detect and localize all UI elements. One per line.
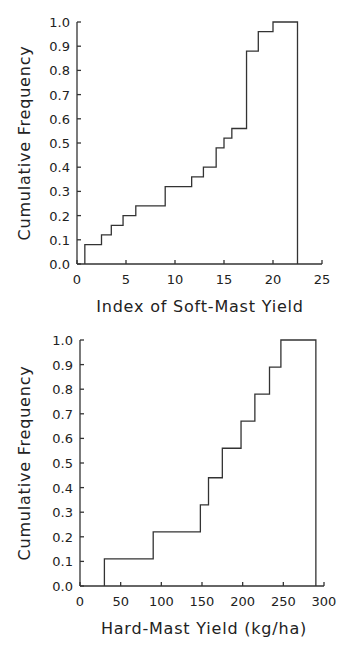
y-tick-label: 0.6 <box>52 431 73 446</box>
y-tick-label: 0.3 <box>52 505 73 520</box>
y-tick-label: 0.1 <box>49 233 70 248</box>
x-tick-label: 0 <box>76 594 84 609</box>
y-tick-label: 0.2 <box>52 530 73 545</box>
y-tick-label: 0.3 <box>49 184 70 199</box>
y-tick-label: 0.5 <box>49 136 70 151</box>
y-tick-label: 0.0 <box>52 579 73 594</box>
y-tick-label: 0.1 <box>52 554 73 569</box>
y-tick-label: 0.8 <box>49 63 70 78</box>
soft-mast-chart: 0.00.10.20.30.40.50.60.70.80.91.0 051015… <box>0 0 352 320</box>
y-tick-label: 0.9 <box>52 358 73 373</box>
y-tick-label: 0.2 <box>49 209 70 224</box>
x-tick-label: 50 <box>112 594 129 609</box>
x-tick-label: 0 <box>73 272 81 287</box>
y-tick-label: 1.0 <box>49 15 70 30</box>
x-tick-label: 20 <box>265 272 282 287</box>
y-tick-label: 0.0 <box>49 257 70 272</box>
y-tick-label: 0.6 <box>49 112 70 127</box>
y-axis-title: Cumulative Frequency <box>15 365 34 560</box>
x-axis-title: Hard-Mast Yield (kg/ha) <box>101 619 307 638</box>
y-tick-label: 0.8 <box>52 382 73 397</box>
y-tick-label: 0.4 <box>49 160 70 175</box>
y-axis: 0.00.10.20.30.40.50.60.70.80.91.0 <box>52 333 84 594</box>
x-tick-label: 25 <box>314 272 331 287</box>
step-line <box>104 340 315 586</box>
y-axis-title: Cumulative Frequency <box>15 45 34 240</box>
y-tick-label: 0.5 <box>52 456 73 471</box>
x-axis: 050100150200250300 <box>76 582 337 609</box>
x-tick-label: 250 <box>271 594 296 609</box>
y-tick-label: 0.9 <box>49 39 70 54</box>
x-tick-label: 200 <box>230 594 255 609</box>
x-tick-label: 5 <box>122 272 130 287</box>
x-axis: 0510152025 <box>73 260 330 287</box>
y-tick-label: 0.7 <box>52 407 73 422</box>
y-tick-label: 0.7 <box>49 88 70 103</box>
x-tick-label: 300 <box>312 594 337 609</box>
x-axis-title: Index of Soft-Mast Yield <box>96 297 304 316</box>
x-tick-label: 15 <box>216 272 233 287</box>
step-line <box>85 22 298 264</box>
x-tick-label: 100 <box>149 594 174 609</box>
x-tick-label: 10 <box>167 272 184 287</box>
hard-mast-chart: 0.00.10.20.30.40.50.60.70.80.91.0 050100… <box>0 320 352 658</box>
y-tick-label: 1.0 <box>52 333 73 348</box>
x-tick-label: 150 <box>190 594 215 609</box>
y-tick-label: 0.4 <box>52 481 73 496</box>
y-axis: 0.00.10.20.30.40.50.60.70.80.91.0 <box>49 15 81 272</box>
